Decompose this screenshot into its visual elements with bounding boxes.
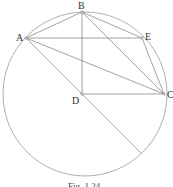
point-E <box>141 37 143 39</box>
segment-AD-extended <box>26 38 141 153</box>
label-A: A <box>16 32 24 43</box>
geometry-figure: A B C D E Fig. 1.24 <box>0 0 173 187</box>
label-E: E <box>145 31 151 42</box>
point-C <box>163 93 165 95</box>
point-D <box>81 93 83 95</box>
label-C: C <box>167 89 173 100</box>
segment-BE <box>82 12 142 38</box>
label-B: B <box>78 0 85 11</box>
point-B <box>81 11 83 13</box>
label-D: D <box>72 95 79 106</box>
figure-caption: Fig. 1.24 <box>68 181 101 187</box>
segment-BC <box>82 12 164 94</box>
segment-EC <box>142 38 164 94</box>
segment-AC <box>26 38 164 94</box>
point-A <box>25 37 27 39</box>
segment-AB <box>26 12 82 38</box>
